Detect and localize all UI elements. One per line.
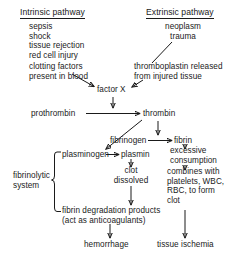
fibrin-degradation-products-label: fibrin degradation products (act as anti… <box>62 206 160 225</box>
clot-dissolved-label: clot dissolved <box>106 166 156 185</box>
extrinsic-pathway-causes: neoplasm trauma <box>153 22 213 41</box>
fibrin-label: fibrin <box>174 136 192 146</box>
tissue-ischemia-label: tissue ischemia <box>157 240 214 250</box>
edge-extrinsic-causes-to-thromboplastin <box>152 42 172 63</box>
clotting-factors-label: clotting factors present in blood <box>29 62 88 81</box>
fibrinolytic-system-label: fibrinolytic system <box>13 171 50 190</box>
coagulation-cascade-diagram: Intrinsic pathway sepsis shock tissue re… <box>0 0 248 261</box>
thrombin-label: thrombin <box>143 109 175 119</box>
prothrombin-label: prothrombin <box>31 109 75 119</box>
thromboplastin-label: thromboplastin released from injured tis… <box>134 62 223 81</box>
plasmin-label: plasmin <box>121 150 150 160</box>
factor-x-label: factor X <box>97 85 126 95</box>
extrinsic-pathway-header: Extrinsic pathway <box>146 8 214 19</box>
excessive-consumption-label: excessive consumption <box>170 146 217 165</box>
plasminogen-label: plasminogen <box>62 150 109 160</box>
intrinsic-pathway-header: Intrinsic pathway <box>20 8 85 19</box>
edge-thromboplastin-to-factor-x <box>132 80 143 87</box>
fibrinolytic-brace <box>52 152 62 212</box>
combines-with-label: combines with platelets, WBC, RBC, to fo… <box>167 167 224 205</box>
hemorrhage-label: hemorrhage <box>84 240 129 250</box>
intrinsic-pathway-causes: sepsis shock tissue rejection red cell i… <box>29 22 84 60</box>
fibrinogen-label: fibrinogen <box>110 136 146 146</box>
